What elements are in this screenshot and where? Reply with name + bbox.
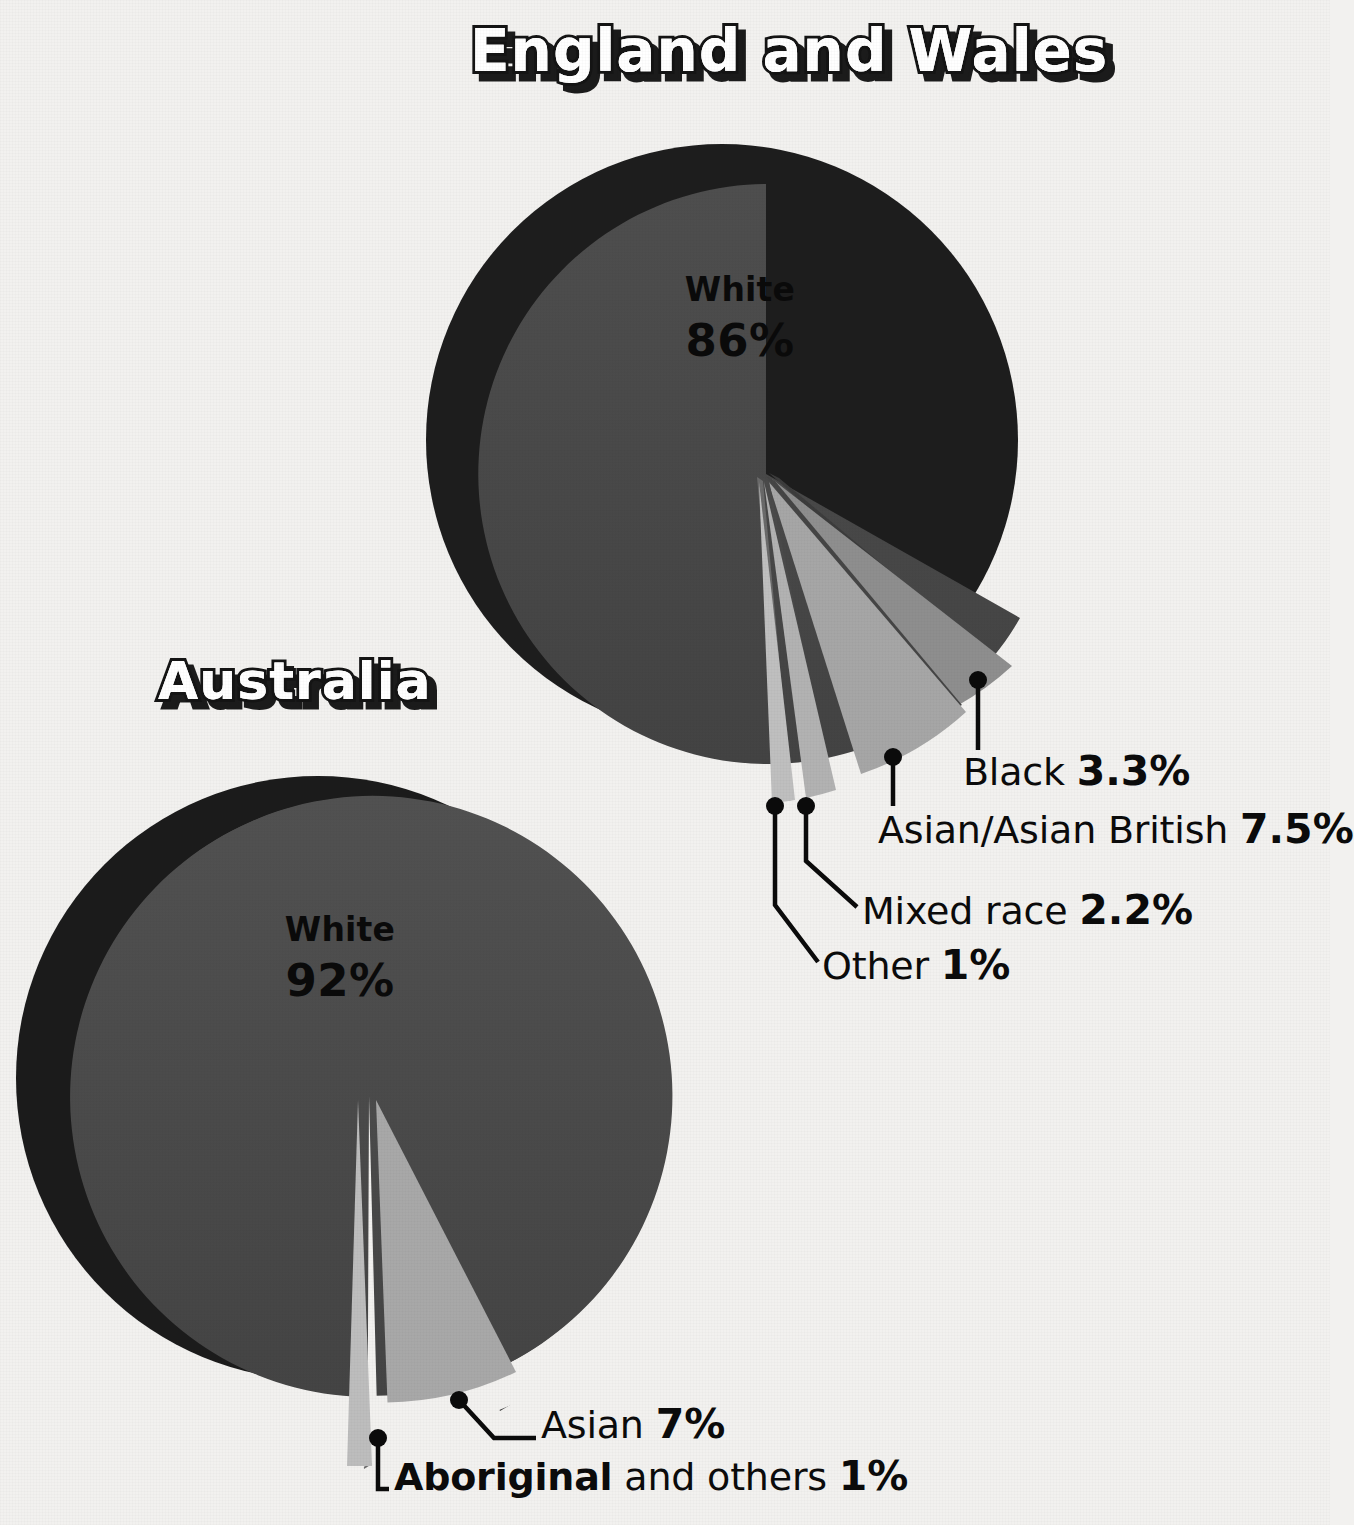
australia-center-label: White 92% <box>245 912 435 1006</box>
callout-mixed-race: Mixed race 2.2% <box>862 890 1193 931</box>
callout-other-percent: 1% <box>941 941 1011 989</box>
callout-australia-asian: Asian 7% <box>541 1404 725 1445</box>
callout-black-category: Black <box>963 750 1065 794</box>
leader-dot-au-asian <box>450 1391 468 1409</box>
ew-center-label: White 86% <box>645 272 835 366</box>
callout-australia-asian-category: Asian <box>541 1403 644 1447</box>
leader-dot-other <box>766 797 784 815</box>
australia-center-label-category: White <box>245 912 435 949</box>
leader-dot-black <box>969 671 987 689</box>
leader-dot-au-aboriginal <box>369 1429 387 1447</box>
callout-australia-aboriginal-percent: 1% <box>839 1452 909 1500</box>
callout-australia-asian-percent: 7% <box>656 1400 726 1448</box>
pie-england-wales <box>426 144 1020 803</box>
callout-asian-british-category: Asian/Asian British <box>878 808 1228 852</box>
leader-dot-asian-british <box>884 748 902 766</box>
callout-asian-british-percent: 7.5% <box>1240 805 1354 853</box>
ew-center-label-category: White <box>645 272 835 309</box>
callout-australia-aboriginal-rest: and others <box>612 1455 826 1499</box>
callout-other: Other 1% <box>822 945 1010 986</box>
title-england-highlight: England and Wales <box>470 22 1108 80</box>
leader-dot-mixed <box>797 797 815 815</box>
title-australia-highlight: Australia <box>158 655 432 707</box>
callout-mixed-race-category: Mixed race <box>862 889 1067 933</box>
title-australia: Australia Australia Australia <box>158 655 432 707</box>
callout-black: Black 3.3% <box>963 751 1190 792</box>
ew-center-label-percent: 86% <box>645 316 835 366</box>
callout-australia-aboriginal-bold: Aboriginal <box>394 1455 612 1499</box>
callout-asian-british: Asian/Asian British 7.5% <box>878 809 1354 850</box>
callout-mixed-race-percent: 2.2% <box>1079 886 1193 934</box>
leader-other <box>775 806 818 962</box>
callout-black-percent: 3.3% <box>1077 747 1191 795</box>
leader-mixed <box>806 806 857 907</box>
callout-other-category: Other <box>822 944 929 988</box>
title-england-and-wales: England and Wales England and Wales Engl… <box>470 22 1108 80</box>
pie-australia <box>16 776 676 1470</box>
callout-australia-aboriginal: Aboriginal and others 1% <box>394 1456 908 1497</box>
australia-center-label-percent: 92% <box>245 956 435 1006</box>
